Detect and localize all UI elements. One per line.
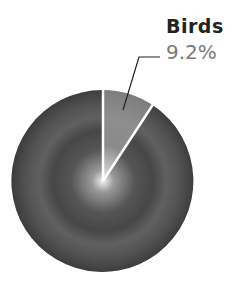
slice-label-value: 9.2% — [166, 40, 217, 64]
slice-label-name: Birds — [166, 15, 224, 37]
